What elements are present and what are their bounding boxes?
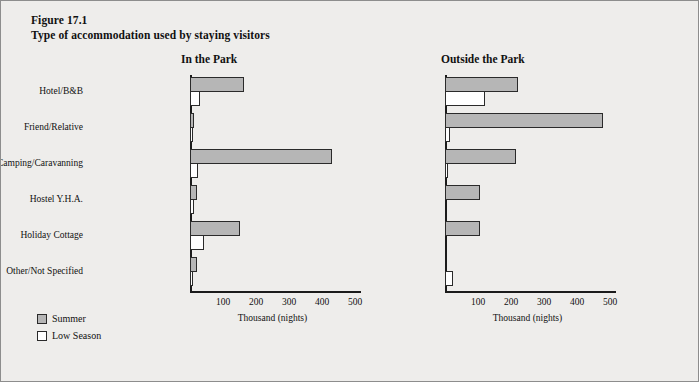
bar-summer: [190, 113, 194, 128]
figure-number: Figure 17.1: [31, 13, 270, 28]
bar-low-season: [190, 199, 194, 214]
bar-summer: [445, 221, 480, 236]
bar-summer: [445, 149, 516, 164]
bar-summer: [190, 221, 240, 236]
bar-summer: [190, 257, 197, 272]
figure-page: Figure 17.1 Type of accommodation used b…: [0, 0, 699, 382]
category-axis-labels: Hotel/B&BFriend/RelativeCamping/Caravann…: [0, 75, 89, 297]
legend-label-low: Low Season: [52, 330, 101, 342]
x-tick-label: 500: [603, 297, 617, 307]
legend-label-summer: Summer: [52, 313, 86, 325]
legend-item-summer: Summer: [37, 311, 101, 326]
bar-low-season: [190, 127, 193, 142]
plot-area-outside-the-park: 100200300400500Thousand (nights): [431, 75, 676, 297]
bar-summer: [190, 77, 244, 92]
bar-low-season: [190, 163, 198, 178]
x-tick-label: 200: [504, 297, 518, 307]
x-axis-caption: Thousand (nights): [493, 313, 562, 323]
x-tick-label: 200: [249, 297, 263, 307]
x-tick-label: 300: [537, 297, 551, 307]
x-tick-label: 400: [570, 297, 584, 307]
bar-summer: [190, 185, 197, 200]
bar-summer: [445, 185, 480, 200]
bar-low-season: [190, 91, 200, 106]
bar-low-season: [445, 163, 448, 178]
x-axis-caption: Thousand (nights): [238, 313, 307, 323]
legend: SummerLow Season: [37, 311, 101, 345]
category-label: Hostel Y.H.A.: [30, 194, 83, 205]
x-tick-label: 500: [348, 297, 362, 307]
bar-low-season: [445, 127, 450, 142]
category-label: Hotel/B&B: [39, 86, 83, 97]
panel-title-outside-the-park: Outside the Park: [441, 53, 525, 65]
category-label: Other/Not Specified: [6, 266, 83, 277]
bar-low-season: [190, 271, 193, 286]
x-tick-label: 100: [216, 297, 230, 307]
x-tick-label: 300: [282, 297, 296, 307]
legend-swatch-summer: [37, 314, 47, 324]
x-axis-line: [190, 291, 361, 293]
figure-heading: Figure 17.1 Type of accommodation used b…: [31, 13, 270, 43]
category-label: Friend/Relative: [24, 122, 83, 133]
figure-title: Type of accommodation used by staying vi…: [31, 28, 270, 43]
y-axis-line: [445, 75, 447, 291]
legend-swatch-low: [37, 331, 47, 341]
category-label: Holiday Cottage: [20, 230, 83, 241]
bar-summer: [445, 113, 603, 128]
x-tick-label: 100: [471, 297, 485, 307]
x-tick-label: 400: [315, 297, 329, 307]
bar-low-season: [445, 271, 453, 286]
bar-low-season: [190, 235, 204, 250]
bar-summer: [190, 149, 332, 164]
legend-item-low: Low Season: [37, 328, 101, 343]
bar-low-season: [445, 91, 485, 106]
plot-area-in-the-park: 100200300400500Thousand (nights): [89, 75, 389, 297]
category-label: Camping/Caravanning: [0, 158, 83, 169]
x-axis-line: [445, 291, 616, 293]
bar-summer: [445, 77, 518, 92]
panel-title-in-the-park: In the Park: [181, 53, 237, 65]
